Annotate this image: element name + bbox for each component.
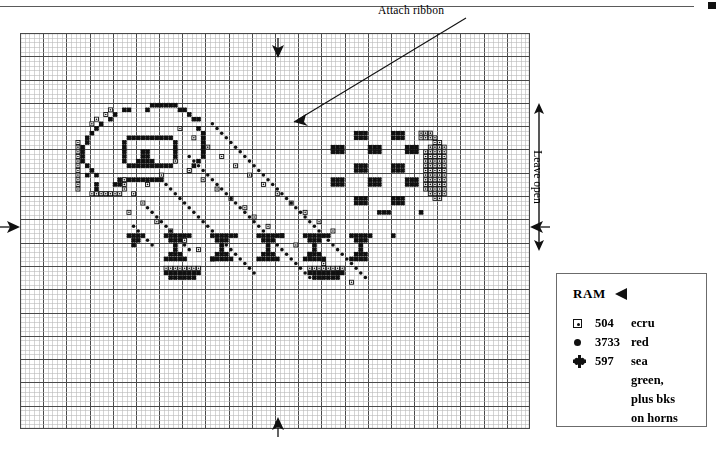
cross-clover-symbol-icon <box>573 352 595 371</box>
top-center-arrow-icon <box>270 38 286 58</box>
legend-entry-list: 504 ecru 3733 red 597 sea green, plus bk… <box>573 314 698 428</box>
page-corner-marker <box>708 2 716 9</box>
attach-ribbon-leader-line <box>270 14 470 132</box>
square-dot-symbol-icon <box>573 314 595 333</box>
legend-thread-name: ecru <box>631 314 655 333</box>
right-center-arrow-icon <box>530 219 550 235</box>
left-triangle-icon <box>615 288 628 300</box>
legend-panel[interactable]: RAM 504 ecru 3733 red 597 <box>556 273 707 427</box>
legend-row[interactable]: 504 ecru <box>573 314 698 333</box>
legend-note-line: plus bks <box>631 390 698 409</box>
legend-title-row: RAM <box>573 286 628 302</box>
legend-note-line: on horns <box>631 409 698 428</box>
bottom-center-arrow-icon <box>270 417 286 437</box>
legend-title-text: RAM <box>573 286 606 302</box>
legend-thread-name: sea <box>631 352 648 371</box>
header-rule <box>0 6 694 7</box>
legend-thread-code: 3733 <box>595 333 631 352</box>
filled-circle-symbol-icon <box>573 333 595 352</box>
legend-thread-code: 504 <box>595 314 631 333</box>
legend-row[interactable]: 597 sea <box>573 352 698 371</box>
legend-thread-name: red <box>631 333 649 352</box>
left-center-arrow-icon <box>0 219 20 235</box>
legend-thread-code: 597 <box>595 352 631 371</box>
legend-row[interactable]: 3733 red <box>573 333 698 352</box>
legend-note-line: green, <box>631 371 698 390</box>
